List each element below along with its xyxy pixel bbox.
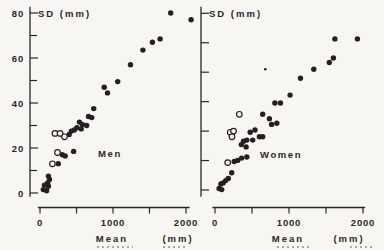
data-point-filled [244,154,249,159]
data-point-filled [84,123,89,128]
x-tick-label: 1000 [277,217,301,228]
data-point-filled [298,76,303,81]
panel-annotation: Men [98,148,122,159]
data-point-open [55,150,61,156]
cropped-caption-fragment [163,246,188,248]
data-point-filled [248,130,253,135]
data-point-filled [46,184,51,189]
data-point-filled [267,116,272,121]
data-point-filled [331,55,336,60]
data-point-filled [327,60,332,65]
data-point-filled [102,85,107,90]
x-tick-label: 2000 [351,217,375,228]
data-point-filled [168,10,173,15]
data-point-filled [260,112,265,117]
data-point-filled [219,187,224,192]
data-point-filled [157,36,162,41]
y-tick-label: 20 [12,143,24,154]
data-point-filled [188,17,193,22]
y-tick-label: 0 [18,188,24,199]
women-panel: 010002000SD (mm)Mean(mm)Women [201,8,375,244]
data-point-filled [243,144,248,149]
data-point-filled [56,161,61,166]
data-point-open [50,161,56,167]
data-point-open [229,134,235,140]
data-point-filled [252,127,257,132]
scatter-figure: 020406080010002000SD (mm)Mean(mm)Men0100… [0,0,384,250]
data-point-filled [264,68,267,71]
x-axis-title: Mean [96,233,128,244]
data-point-filled [269,122,274,127]
x-axis-unit: (mm) [333,233,364,244]
data-point-open [62,134,68,140]
data-point-open [225,160,231,166]
data-point-filled [47,177,52,182]
figure-svg: 020406080010002000SD (mm)Mean(mm)Men0100… [0,0,384,250]
data-point-open [231,128,237,134]
data-point-open [237,112,243,118]
y-tick-label: 60 [12,53,24,64]
x-axis-title: Mean [272,233,304,244]
data-point-filled [89,115,94,120]
data-point-filled [272,100,277,105]
x-tick-label: 1000 [101,217,125,228]
x-axis-unit: (mm) [162,233,193,244]
data-point-filled [79,126,84,131]
data-point-filled [239,155,244,160]
data-point-filled [128,62,133,67]
y-axis-title: SD (mm) [38,8,91,19]
data-point-filled [115,79,120,84]
data-point-filled [244,137,249,142]
data-point-filled [62,153,67,158]
data-point-filled [250,137,255,142]
data-point-filled [226,176,231,181]
data-point-filled [229,170,234,175]
cropped-caption-fragment [350,246,374,248]
data-point-filled [278,100,283,105]
data-point-filled [71,149,76,154]
data-point-filled [140,47,145,52]
x-tick-label: 0 [212,217,218,228]
data-point-filled [355,36,360,41]
data-point-filled [287,92,292,97]
data-point-filled [311,67,316,72]
data-point-filled [260,134,265,139]
panel-annotation: Women [260,149,302,160]
data-point-filled [105,90,110,95]
cropped-caption-fragment [277,246,310,248]
x-tick-label: 0 [37,217,43,228]
data-point-filled [150,40,155,45]
data-point-filled [332,36,337,41]
cropped-caption-fragment [97,246,133,248]
men-panel: 020406080010002000SD (mm)Mean(mm)Men [12,8,198,244]
data-point-filled [91,106,96,111]
y-tick-label: 40 [12,98,24,109]
y-tick-label: 80 [12,8,24,19]
x-tick-label: 2000 [174,217,198,228]
y-axis-title: SD (mm) [209,8,262,19]
data-point-filled [274,121,279,126]
